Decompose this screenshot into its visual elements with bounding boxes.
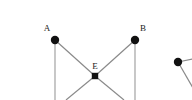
figure-container: A B E bbox=[0, 0, 192, 100]
node-label-a: A bbox=[44, 23, 51, 33]
graph-diagram: A B E bbox=[0, 0, 192, 100]
node-partial bbox=[174, 58, 182, 66]
node-e bbox=[92, 73, 98, 79]
node-label-e: E bbox=[92, 61, 98, 71]
node-label-b: B bbox=[140, 23, 146, 33]
node-a bbox=[51, 36, 59, 44]
diagram-background bbox=[0, 0, 192, 100]
node-b bbox=[131, 36, 139, 44]
